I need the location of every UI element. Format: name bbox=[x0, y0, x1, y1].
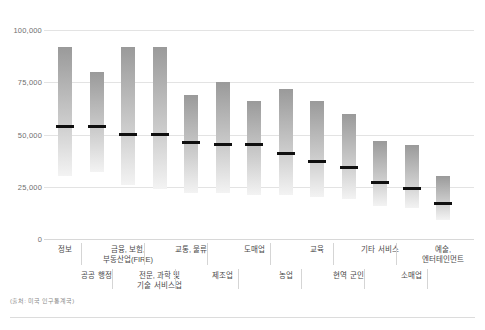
range-bar bbox=[310, 101, 324, 197]
category-label: 교육 bbox=[286, 245, 348, 255]
gridline bbox=[44, 82, 474, 83]
category-label: 정보 bbox=[34, 245, 96, 255]
label-separator bbox=[238, 269, 239, 289]
label-separator bbox=[144, 243, 145, 265]
y-axis-tick: 0 bbox=[0, 235, 42, 244]
gridline bbox=[44, 30, 474, 31]
category-label: 전문, 과학 및 기술 서비스업 bbox=[129, 271, 191, 290]
median-marker bbox=[277, 152, 295, 155]
label-separator bbox=[364, 269, 365, 289]
median-marker bbox=[403, 187, 421, 190]
category-label: 제조업 bbox=[192, 271, 254, 281]
y-axis-tick: 25,000 bbox=[0, 182, 42, 191]
category-label: 소매업 bbox=[381, 271, 443, 281]
median-marker bbox=[340, 166, 358, 169]
range-bar bbox=[153, 47, 167, 189]
y-axis-tick: 50,000 bbox=[0, 130, 42, 139]
category-label: 교통, 물류 bbox=[160, 245, 222, 255]
range-bar bbox=[342, 114, 356, 200]
median-marker bbox=[371, 181, 389, 184]
label-separator bbox=[81, 243, 82, 265]
label-separator bbox=[396, 243, 397, 265]
label-separator bbox=[112, 269, 113, 289]
category-label: 기타 서비스 bbox=[349, 245, 411, 255]
source-note: (출처: 미국 인구통계국) bbox=[10, 296, 74, 305]
range-bar bbox=[121, 47, 135, 185]
median-marker bbox=[56, 125, 74, 128]
range-bar bbox=[373, 141, 387, 206]
label-separator bbox=[270, 243, 271, 265]
category-label: 예술, 엔터테인먼트 bbox=[412, 245, 474, 264]
median-marker bbox=[434, 202, 452, 205]
range-bar bbox=[247, 101, 261, 195]
range-bar bbox=[436, 176, 450, 220]
income-range-chart: 100,00075,00050,00025,0000정보공공 행정금융, 보험,… bbox=[0, 0, 485, 330]
y-axis-tick: 100,000 bbox=[0, 26, 42, 35]
axis-baseline bbox=[44, 239, 474, 240]
median-marker bbox=[245, 143, 263, 146]
range-bar bbox=[405, 145, 419, 208]
label-separator bbox=[175, 269, 176, 289]
range-bar bbox=[279, 89, 293, 196]
median-marker bbox=[151, 133, 169, 136]
category-label: 농업 bbox=[255, 271, 317, 281]
median-marker bbox=[88, 125, 106, 128]
bottom-divider bbox=[10, 317, 475, 318]
category-label: 도매업 bbox=[223, 245, 285, 255]
category-label: 현역 군인 bbox=[318, 271, 380, 281]
range-bar bbox=[90, 72, 104, 172]
label-separator bbox=[427, 269, 428, 289]
label-separator bbox=[207, 243, 208, 265]
range-bar bbox=[58, 47, 72, 177]
range-bar bbox=[216, 82, 230, 193]
median-marker bbox=[308, 160, 326, 163]
category-label: 금융, 보험, 부동산업(FIRE) bbox=[97, 245, 159, 264]
y-axis-tick: 75,000 bbox=[0, 78, 42, 87]
median-marker bbox=[119, 133, 137, 136]
plot-area: 100,00075,00050,00025,0000정보공공 행정금융, 보험,… bbox=[0, 0, 485, 330]
label-separator bbox=[301, 269, 302, 289]
category-label: 공공 행정 bbox=[66, 271, 128, 281]
median-marker bbox=[214, 143, 232, 146]
median-marker bbox=[182, 141, 200, 144]
label-separator bbox=[333, 243, 334, 265]
